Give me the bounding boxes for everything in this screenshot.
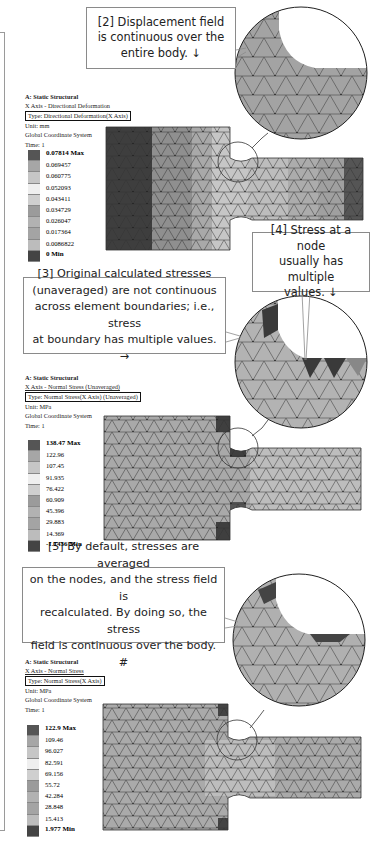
legend-max: 138.47 Max bbox=[46, 438, 82, 449]
legend-value: 109.46 bbox=[45, 734, 76, 745]
result-type: Type: Normal Stress(X Axis) (Unaveraged) bbox=[25, 392, 141, 403]
legend-value: 0.017364 bbox=[46, 226, 84, 237]
analysis-title: A: Static Structural bbox=[25, 92, 131, 101]
legend-value: 60.909 bbox=[46, 494, 82, 505]
legend-min: -1.1436 Min bbox=[46, 539, 82, 550]
result-header-averaged: A: Static Structural X Axis - Normal Str… bbox=[25, 657, 105, 714]
legend-value: 107.45 bbox=[46, 460, 82, 471]
legend-max: 122.9 Max bbox=[45, 723, 76, 734]
coordinate-system: Global Coordinate System bbox=[25, 411, 141, 420]
zoom-circle-unaveraged bbox=[235, 296, 367, 428]
legend-value: 0.034729 bbox=[46, 204, 84, 215]
result-name: X Axis - Normal Stress bbox=[25, 666, 105, 675]
legend-value: 0.0086822 bbox=[46, 238, 84, 249]
legend-min: 1.977 Min bbox=[45, 824, 76, 835]
unaveraged-stress-contour-body bbox=[104, 416, 361, 540]
legend-value: 76.422 bbox=[46, 483, 82, 494]
legend-value: 91.935 bbox=[46, 472, 82, 483]
result-type: Type: Normal Stress(X Axis) bbox=[25, 676, 105, 687]
averaged-stress-contour-body bbox=[103, 704, 361, 830]
legend-value: 42.284 bbox=[45, 790, 76, 801]
legend-value: 0.052093 bbox=[46, 182, 84, 193]
legend-value: 55.72 bbox=[45, 779, 76, 790]
legend-min: 0 Min bbox=[46, 249, 84, 260]
result-unit: Unit: mm bbox=[25, 121, 131, 130]
legend-value: 82.591 bbox=[45, 757, 76, 768]
legend-value: 15.413 bbox=[45, 813, 76, 824]
result-unit: Unit: MPa bbox=[25, 402, 141, 411]
legend-value: 14.369 bbox=[46, 528, 82, 539]
legend-max: 0.07814 Max bbox=[46, 148, 84, 159]
time: Time: 1 bbox=[25, 705, 105, 714]
result-header-deformation: A: Static Structural X Axis - Directiona… bbox=[25, 92, 131, 149]
legend-value: 0.069457 bbox=[46, 159, 84, 170]
legend-value: 122.96 bbox=[46, 449, 82, 460]
result-name: X Axis - Normal Stress (Unaveraged) bbox=[25, 382, 141, 391]
result-unit: Unit: MPa bbox=[25, 686, 105, 695]
analysis-title: A: Static Structural bbox=[25, 657, 105, 666]
legend-value: 0.060775 bbox=[46, 170, 84, 181]
result-name: X Axis - Directional Deformation bbox=[25, 101, 131, 110]
time: Time: 1 bbox=[25, 421, 141, 430]
legend-value: 45.396 bbox=[46, 505, 82, 516]
result-header-unaveraged: A: Static Structural X Axis - Normal Str… bbox=[25, 373, 141, 430]
zoom-circle-deformation bbox=[235, 7, 367, 139]
callout-unaveraged-stresses: [3] Original calculated stresses(unavera… bbox=[23, 277, 226, 354]
callout-displacement-continuous: [2] Displacement fieldis continuous over… bbox=[86, 7, 236, 69]
legend-value: 96.027 bbox=[45, 745, 76, 756]
legend-value: 69.156 bbox=[45, 768, 76, 779]
callout-averaged-stresses: [5] By default, stresses are averagedon … bbox=[22, 567, 225, 643]
color-scale-bar bbox=[27, 725, 39, 837]
coordinate-system: Global Coordinate System bbox=[25, 695, 105, 704]
legend-value: 28.848 bbox=[45, 801, 76, 812]
legend-value: 0.043411 bbox=[46, 193, 84, 204]
coordinate-system: Global Coordinate System bbox=[25, 130, 131, 139]
color-scale-bar bbox=[28, 150, 40, 262]
legend-value: 0.026047 bbox=[46, 215, 84, 226]
zoom-circle-averaged bbox=[233, 574, 365, 706]
result-type: Type: Directional Deformation(X Axis) bbox=[25, 111, 131, 122]
legend-value: 29.883 bbox=[46, 516, 82, 527]
analysis-title: A: Static Structural bbox=[25, 373, 141, 382]
color-scale-bar bbox=[28, 440, 40, 552]
callout-stress-multiple-values: [4] Stress at a nodeusually has multiple… bbox=[252, 232, 370, 292]
